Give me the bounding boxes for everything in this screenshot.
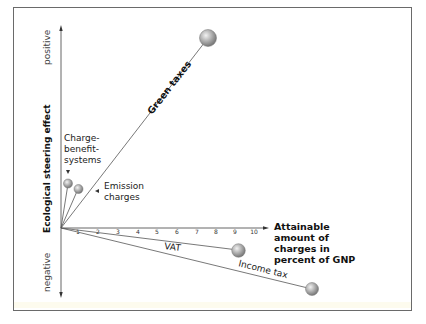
x-tick: 6 xyxy=(175,228,179,235)
x-tick: 10 xyxy=(250,228,258,235)
charge-benefit-label: Charge- benefit- systems xyxy=(64,133,102,165)
pointer-down-icon xyxy=(66,170,70,174)
svg-text:benefit-: benefit- xyxy=(64,144,99,154)
svg-text:charges: charges xyxy=(104,192,140,202)
pointer-left-icon xyxy=(95,189,99,193)
x-tick: 4 xyxy=(136,228,140,235)
x-axis xyxy=(61,226,269,229)
arrow-down-icon xyxy=(59,292,62,298)
diagram-canvas: positive Ecological steering effect nega… xyxy=(0,0,426,324)
line-emission xyxy=(61,189,78,228)
x-tick: 9 xyxy=(233,228,237,235)
x-tick: 8 xyxy=(214,228,218,235)
y-axis-negative-label: negative xyxy=(42,252,52,292)
x-axis-ticks: 1 2 3 4 5 6 7 8 9 10 xyxy=(76,228,258,235)
arrow-up-icon xyxy=(59,25,62,31)
x-tick: 3 xyxy=(116,228,120,235)
svg-text:charges in: charges in xyxy=(274,243,330,254)
svg-text:systems: systems xyxy=(64,155,102,165)
green-taxes-marker xyxy=(200,30,217,47)
vat-marker xyxy=(232,244,246,258)
svg-text:Emission: Emission xyxy=(104,181,144,191)
line-charge-benefit xyxy=(61,184,68,228)
x-axis-title: Attainable amount of charges in percent … xyxy=(274,221,355,265)
svg-text:percent of GNP: percent of GNP xyxy=(274,254,355,265)
emission-charges-marker xyxy=(74,185,83,194)
charge-benefit-marker xyxy=(64,179,73,188)
y-axis-positive-label: positive xyxy=(42,29,52,65)
line-vat xyxy=(61,228,238,250)
x-tick: 2 xyxy=(96,228,100,235)
vat-label: VAT xyxy=(164,241,182,253)
arrow-right-icon xyxy=(263,226,269,229)
svg-text:Attainable: Attainable xyxy=(274,221,330,232)
y-axis-title: Ecological steering effect xyxy=(42,104,52,233)
emission-charges-label: Emission charges xyxy=(104,181,144,202)
diagram-svg: positive Ecological steering effect nega… xyxy=(0,0,426,324)
svg-text:amount of: amount of xyxy=(274,232,330,243)
svg-text:Charge-: Charge- xyxy=(64,133,100,143)
x-tick: 7 xyxy=(195,228,199,235)
x-tick: 5 xyxy=(155,228,159,235)
income-tax-marker xyxy=(306,283,319,296)
y-axis xyxy=(59,25,62,298)
green-taxes-label: Green taxes xyxy=(145,58,194,116)
